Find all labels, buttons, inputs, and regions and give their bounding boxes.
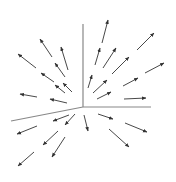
vector-arrow	[18, 152, 34, 166]
vector-arrow	[55, 85, 65, 93]
vector-arrow	[53, 115, 69, 121]
vector-arrow	[125, 123, 147, 132]
vector-arrow	[40, 39, 52, 57]
vector-arrow	[50, 99, 67, 103]
vector-arrow	[109, 129, 129, 147]
vector-arrow	[17, 126, 37, 134]
vector-arrows	[17, 20, 164, 166]
vector-arrow	[20, 94, 37, 97]
vector-arrow	[61, 47, 68, 70]
vector-arrow	[43, 131, 58, 145]
vector-arrow	[102, 20, 108, 43]
vector-field-plot	[0, 0, 176, 182]
vector-arrow	[55, 63, 65, 77]
vector-arrow	[98, 114, 113, 119]
vector-arrow	[41, 73, 54, 82]
vector-arrow	[52, 137, 65, 157]
vector-arrow	[103, 48, 116, 68]
axes	[11, 24, 151, 121]
x-axis	[11, 107, 83, 121]
vector-arrow	[95, 48, 100, 65]
vector-arrow	[137, 33, 154, 50]
vector-arrow	[88, 75, 92, 88]
vector-arrow	[97, 92, 111, 99]
vector-arrow	[112, 57, 129, 74]
vector-arrow	[18, 54, 36, 68]
vector-arrow	[124, 98, 146, 99]
vector-field-diagram	[0, 0, 176, 182]
vector-arrow	[123, 78, 138, 86]
vector-arrow	[63, 83, 72, 92]
vector-arrow	[145, 63, 164, 73]
vector-arrow	[93, 80, 107, 93]
vector-arrow	[84, 115, 88, 131]
